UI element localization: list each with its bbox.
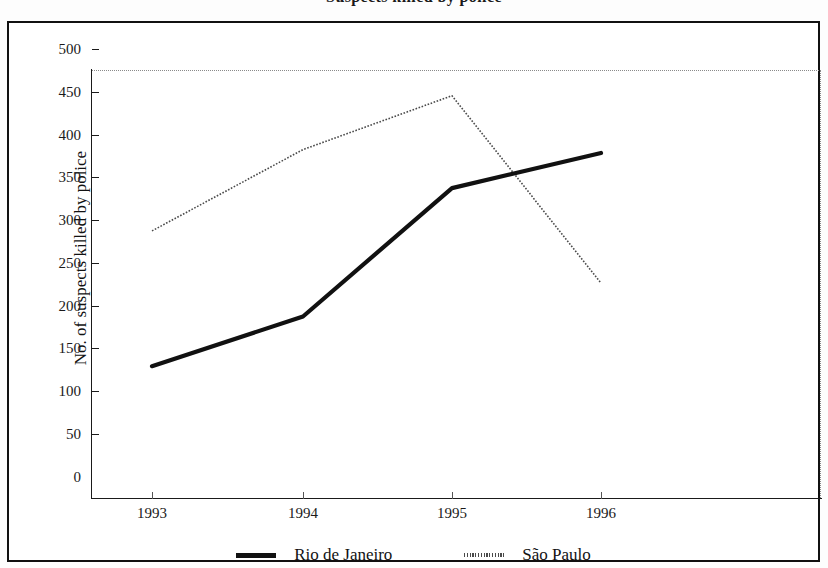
- series-canvas: [92, 70, 821, 498]
- dotted-line-swatch-icon: [464, 553, 504, 557]
- plot-right-border: [820, 70, 821, 498]
- x-tick-label-1995: 1995: [407, 505, 497, 522]
- x-tick-label-1994: 1994: [258, 505, 348, 522]
- y-tick-label-450: 450: [21, 85, 81, 100]
- legend-label-rio-de-janeiro: Rio de Janeiro: [294, 545, 392, 565]
- chart-page: Suspects killed by police No. of suspect…: [0, 0, 828, 568]
- series-line-rio-de-janeiro: [152, 153, 601, 366]
- chart-legend: Rio de Janeiro São Paulo: [16, 535, 811, 568]
- chart-title: Suspects killed by police: [0, 0, 828, 8]
- y-tick-label-150: 150: [21, 341, 81, 356]
- y-tick-label-50: 50: [21, 427, 81, 442]
- y-tick-label-500: 500: [21, 42, 81, 57]
- y-tick-label-400: 400: [21, 128, 81, 143]
- y-tick-mark-500: [92, 49, 99, 50]
- plot-top-border: [92, 70, 821, 71]
- x-tick-label-1996: 1996: [556, 505, 646, 522]
- y-tick-label-0: 0: [21, 470, 81, 485]
- legend-label-sao-paulo: São Paulo: [522, 545, 590, 565]
- y-tick-label-200: 200: [21, 299, 81, 314]
- legend-item-rio-de-janeiro[interactable]: Rio de Janeiro: [236, 545, 392, 565]
- x-tick-label-1993: 1993: [107, 505, 197, 522]
- solid-line-swatch-icon: [236, 553, 276, 558]
- y-tick-label-100: 100: [21, 384, 81, 399]
- legend-item-sao-paulo[interactable]: São Paulo: [464, 545, 590, 565]
- x-axis-line: [91, 498, 822, 499]
- plot-area: [92, 70, 821, 498]
- y-tick-label-250: 250: [21, 256, 81, 271]
- chart-frame: No. of suspects killed by police 500 450…: [7, 21, 820, 562]
- y-tick-label-300: 300: [21, 213, 81, 228]
- y-tick-label-350: 350: [21, 170, 81, 185]
